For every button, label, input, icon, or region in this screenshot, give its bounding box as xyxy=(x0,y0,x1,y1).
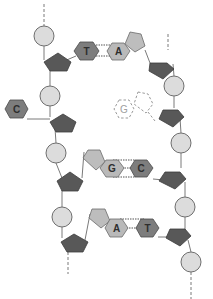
phosphate-right-3 xyxy=(175,197,195,217)
sugar-right-4 xyxy=(166,229,191,246)
phosphate-left-3 xyxy=(46,143,66,163)
base-label: T xyxy=(83,46,89,57)
sugar-left-1 xyxy=(44,53,71,71)
sugar-left-4 xyxy=(61,234,88,252)
phosphate-right-2 xyxy=(171,133,191,153)
ghost-pentagon xyxy=(134,92,153,113)
sugar-left-2 xyxy=(50,114,76,132)
base-label: G xyxy=(108,163,116,174)
dna-diagram: T A C G G C A T xyxy=(0,0,213,299)
sugar-right-3 xyxy=(159,172,186,189)
phosphate-left-1 xyxy=(34,26,54,46)
phosphate-left-2 xyxy=(40,86,60,106)
base-label: A xyxy=(113,223,120,234)
missing-base-G: G xyxy=(114,92,155,121)
phosphate-right-4 xyxy=(181,252,201,272)
base-label: C xyxy=(13,104,20,115)
base-label: G xyxy=(120,104,128,115)
unpaired-base-C: C xyxy=(5,100,28,118)
base-label: T xyxy=(144,223,150,234)
base-label: C xyxy=(137,163,144,174)
base-label: A xyxy=(115,46,122,57)
base-pair-1: T A xyxy=(74,32,145,60)
base-pair-3: A T xyxy=(89,209,159,237)
phosphate-left-4 xyxy=(52,207,72,227)
phosphate-right-1 xyxy=(164,76,184,96)
base-pair-2: G C xyxy=(83,150,153,177)
